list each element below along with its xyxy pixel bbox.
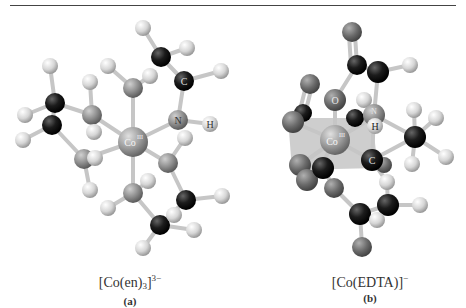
svg-text:III: III xyxy=(137,134,143,140)
formula-co-en3: [Co(en)3]3− xyxy=(70,270,190,294)
caption-panel-b: [Co(EDTA)]− (b) xyxy=(310,270,430,305)
sublabel-a: (a) xyxy=(70,294,190,308)
caption-panel-a: [Co(en)3]3− (a) xyxy=(70,270,190,308)
atoms-co-en3 xyxy=(15,20,230,256)
svg-text:III: III xyxy=(339,132,345,138)
label-h-a: H xyxy=(206,119,213,130)
label-co-b: Co xyxy=(326,136,338,147)
label-c-b: C xyxy=(369,155,376,166)
label-h-b: H xyxy=(371,121,378,132)
formula-co-edta: [Co(EDTA)]− xyxy=(310,270,430,291)
label-o-b: O xyxy=(331,95,338,106)
label-c-a: C xyxy=(181,76,188,87)
sublabel-b: (b) xyxy=(310,291,430,305)
label-co-a: Co xyxy=(124,137,136,148)
label-n-a: N xyxy=(174,115,181,126)
label-n-b: N xyxy=(371,107,377,116)
molecular-diagram: Co III C N H xyxy=(0,0,466,266)
